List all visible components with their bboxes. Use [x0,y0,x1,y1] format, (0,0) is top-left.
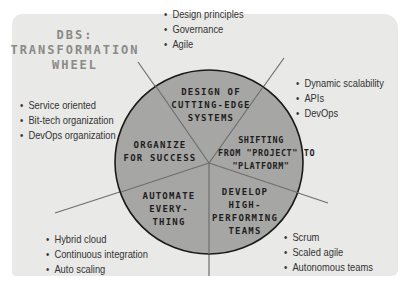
title-line: TRANSFORMATION [10,43,140,58]
segment-line: DEVELOP [209,186,281,199]
bullet-item: Auto scaling [46,262,148,277]
bullet-item: Design principles [164,7,244,22]
segment-line: FOR SUCCESS [119,152,201,165]
segment-line: HIGH- [209,199,281,212]
segment-line: TEAMS [209,225,281,238]
segment-line: AUTOMATE [136,190,202,203]
segment-line: FROM "PROJECT" TO [218,147,304,160]
bullet-item: Scrum [284,230,373,245]
title-line: DBS: [10,28,140,43]
segment-teams-label: DEVELOP HIGH- PERFORMING TEAMS [209,186,281,238]
bullet-item: DevOps organization [20,128,116,143]
bullet-item: Agile [164,37,244,52]
segment-line: "PLATFORM" [218,160,304,173]
bullets-organize: Service oriented Bit-tech organization D… [20,98,116,143]
segment-platform-label: SHIFTING FROM "PROJECT" TO "PLATFORM" [218,134,304,173]
title-line: WHEEL [10,58,140,73]
segment-organize-label: ORGANIZE FOR SUCCESS [119,139,201,165]
segment-line: SHIFTING [218,134,304,147]
bullets-platform: Dynamic scalability APIs DevOps [296,76,384,121]
bullet-item: Dynamic scalability [296,76,384,91]
bullets-automate: Hybrid cloud Continuous integration Auto… [46,232,148,277]
bullet-item: APIs [296,91,384,106]
segment-line: PERFORMING [209,212,281,225]
segment-line: DESIGN OF [168,86,254,99]
bullet-item: Governance [164,22,244,37]
diagram-title: DBS: TRANSFORMATION WHEEL [10,28,140,73]
bullet-item: Scaled agile [284,245,373,260]
segment-line: THING [136,216,202,229]
segment-line: EVERY- [136,203,202,216]
segment-automate-label: AUTOMATE EVERY- THING [136,190,202,229]
segment-line: ORGANIZE [119,139,201,152]
bullet-item: Autonomous teams [284,260,373,275]
bullet-item: Hybrid cloud [46,232,148,247]
bullet-item: DevOps [296,106,384,121]
segment-line: CUTTING-EDGE [168,99,254,112]
segment-line: SYSTEMS [168,112,254,125]
bullet-item: Service oriented [20,98,116,113]
bullets-teams: Scrum Scaled agile Autonomous teams [284,230,373,275]
bullet-item: Bit-tech organization [20,113,116,128]
bullets-design: Design principles Governance Agile [164,7,244,52]
bullet-item: Continuous integration [46,247,148,262]
segment-design-label: DESIGN OF CUTTING-EDGE SYSTEMS [168,86,254,125]
